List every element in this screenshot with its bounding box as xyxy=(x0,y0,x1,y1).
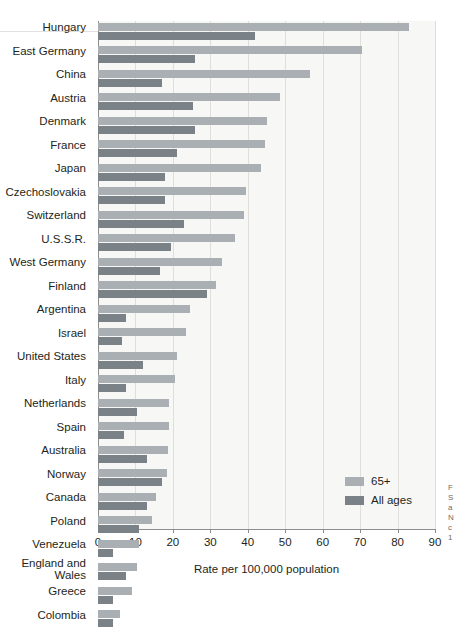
bar-row: Italy xyxy=(0,374,457,398)
category-label: East Germany xyxy=(0,45,86,57)
bar-65plus xyxy=(98,422,169,430)
category-label: United States xyxy=(0,350,86,362)
bar-row: Netherlands xyxy=(0,397,457,421)
category-label: Venezuela xyxy=(0,538,86,550)
bar-row: Switzerland xyxy=(0,209,457,233)
bar-all-ages xyxy=(98,455,147,463)
category-label: Hungary xyxy=(0,21,86,33)
bar-all-ages xyxy=(98,102,193,110)
bar-65plus xyxy=(98,469,167,477)
bar-65plus xyxy=(98,211,244,219)
bar-all-ages xyxy=(98,314,126,322)
bar-65plus xyxy=(98,493,156,501)
category-label: Spain xyxy=(0,421,86,433)
bar-row: Spain xyxy=(0,421,457,445)
bar-65plus xyxy=(98,399,169,407)
category-label: Italy xyxy=(0,374,86,386)
bar-all-ages xyxy=(98,243,171,251)
bar-all-ages xyxy=(98,619,113,627)
margin-caption-cutoff: F S a N c 1 xyxy=(448,483,457,543)
bar-row: Czechoslovakia xyxy=(0,186,457,210)
bar-all-ages xyxy=(98,290,207,298)
category-label: Czechoslovakia xyxy=(0,186,86,198)
legend-label-65plus: 65+ xyxy=(371,473,391,490)
legend-swatch-all-ages xyxy=(345,496,364,505)
x-axis-title: Rate per 100,000 population xyxy=(98,563,435,575)
bar-65plus xyxy=(98,234,235,242)
category-label: Austria xyxy=(0,92,86,104)
bar-row: Israel xyxy=(0,327,457,351)
bar-row: Japan xyxy=(0,162,457,186)
bar-all-ages xyxy=(98,79,162,87)
bar-65plus xyxy=(98,540,139,548)
legend-swatch-65plus xyxy=(345,477,364,486)
bar-row: West Germany xyxy=(0,256,457,280)
bar-all-ages xyxy=(98,55,195,63)
category-label: Finland xyxy=(0,280,86,292)
bar-65plus xyxy=(98,446,168,454)
category-label: Norway xyxy=(0,468,86,480)
bar-all-ages xyxy=(98,196,165,204)
category-label: England and Wales xyxy=(0,557,86,581)
category-label: Australia xyxy=(0,444,86,456)
bar-all-ages xyxy=(98,267,160,275)
category-label: Poland xyxy=(0,515,86,527)
bar-all-ages xyxy=(98,126,195,134)
bar-65plus xyxy=(98,281,216,289)
bar-65plus xyxy=(98,516,152,524)
bar-row: Greece xyxy=(0,585,457,609)
bar-row: Denmark xyxy=(0,115,457,139)
bar-65plus xyxy=(98,375,175,383)
category-label: France xyxy=(0,139,86,151)
bar-65plus xyxy=(98,258,222,266)
bar-all-ages xyxy=(98,431,124,439)
bar-all-ages xyxy=(98,220,184,228)
bar-all-ages xyxy=(98,173,165,181)
bar-all-ages xyxy=(98,549,113,557)
bar-row: Argentina xyxy=(0,303,457,327)
bar-65plus xyxy=(98,70,310,78)
bar-all-ages xyxy=(98,408,137,416)
bar-all-ages xyxy=(98,384,126,392)
bar-65plus xyxy=(98,93,280,101)
bar-65plus xyxy=(98,164,261,172)
bar-65plus xyxy=(98,587,132,595)
bar-all-ages xyxy=(98,525,139,533)
bar-all-ages xyxy=(98,502,147,510)
bar-65plus xyxy=(98,610,120,618)
bar-65plus xyxy=(98,140,265,148)
bar-row: France xyxy=(0,139,457,163)
bar-65plus xyxy=(98,305,190,313)
bar-all-ages xyxy=(98,337,122,345)
bar-65plus xyxy=(98,46,362,54)
bar-row: China xyxy=(0,68,457,92)
category-label: Switzerland xyxy=(0,209,86,221)
bar-row: Hungary xyxy=(0,21,457,45)
bar-65plus xyxy=(98,187,246,195)
bar-row: U.S.S.R. xyxy=(0,233,457,257)
bar-row: Poland xyxy=(0,515,457,539)
bar-row: East Germany xyxy=(0,45,457,69)
bar-65plus xyxy=(98,352,177,360)
category-label: Argentina xyxy=(0,303,86,315)
category-label: Canada xyxy=(0,491,86,503)
category-label: U.S.S.R. xyxy=(0,233,86,245)
bar-row: United States xyxy=(0,350,457,374)
bar-65plus xyxy=(98,23,409,31)
category-label: Netherlands xyxy=(0,397,86,409)
bar-65plus xyxy=(98,328,186,336)
category-label: Colombia xyxy=(0,609,86,621)
bar-all-ages xyxy=(98,149,177,157)
bar-row: Australia xyxy=(0,444,457,468)
bar-all-ages xyxy=(98,478,162,486)
bar-65plus xyxy=(98,117,267,125)
category-label: West Germany xyxy=(0,256,86,268)
bar-all-ages xyxy=(98,32,255,40)
legend-label-all-ages: All ages xyxy=(371,492,412,509)
category-label: China xyxy=(0,68,86,80)
category-label: Denmark xyxy=(0,115,86,127)
category-label: Greece xyxy=(0,585,86,597)
category-label: Israel xyxy=(0,327,86,339)
bar-all-ages xyxy=(98,361,143,369)
